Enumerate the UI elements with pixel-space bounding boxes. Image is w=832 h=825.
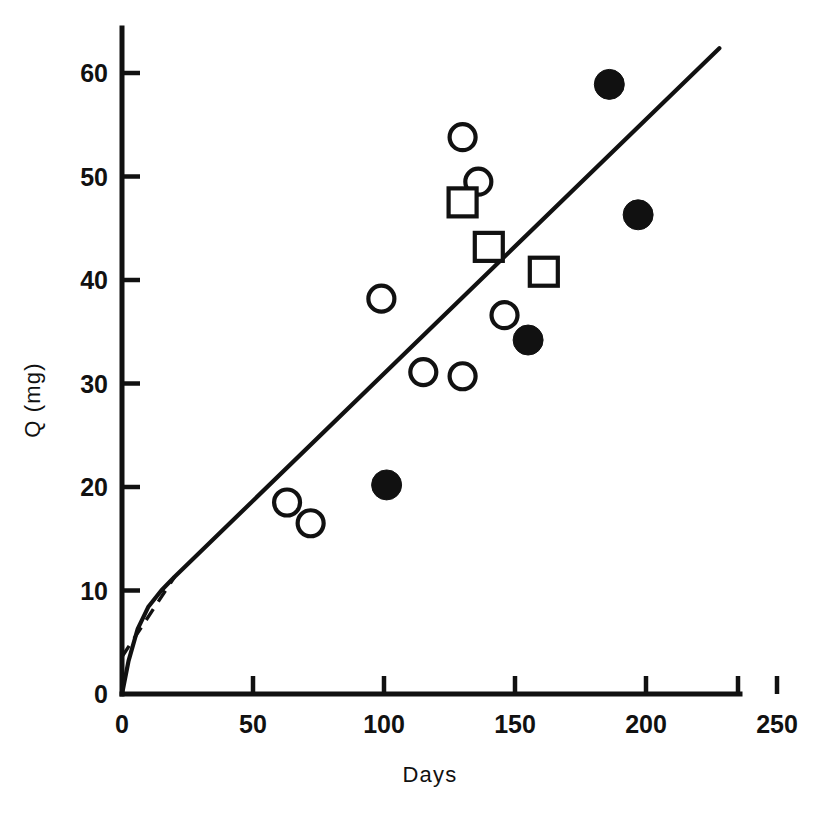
data-point-open-square [449, 188, 477, 216]
y-tick-label-60: 60 [80, 59, 108, 87]
data-point-open-circle [450, 363, 476, 389]
y-tick-label-10: 10 [80, 577, 108, 605]
data-point-filled-circle [623, 200, 653, 230]
y-axis-title: Q (mg) [20, 362, 45, 438]
y-tick-label-50: 50 [80, 163, 108, 191]
data-point-filled-circle [594, 69, 624, 99]
x-tick-label-100: 100 [363, 710, 405, 738]
data-point-filled-circle [372, 470, 402, 500]
x-tick-label-0: 0 [115, 710, 129, 738]
data-point-open-square [530, 258, 558, 286]
data-point-open-circle [450, 124, 476, 150]
data-marker-group [274, 69, 653, 536]
x-tick-label-250: 250 [756, 710, 798, 738]
y-tick-label-40: 40 [80, 266, 108, 294]
x-tick-group: 050100150200250 [115, 676, 798, 738]
data-point-open-square [475, 233, 503, 261]
data-point-open-circle [410, 359, 436, 385]
x-axis-title: Days [403, 762, 458, 787]
x-tick-label-150: 150 [494, 710, 536, 738]
data-point-open-circle [274, 490, 300, 516]
figure-container: 102030405060 050100150200250 0 Days Q (m… [0, 0, 832, 825]
data-point-open-circle [368, 286, 394, 312]
scatter-plot: 102030405060 050100150200250 0 Days Q (m… [0, 0, 832, 825]
x-tick-label-200: 200 [625, 710, 667, 738]
origin-label: 0 [94, 680, 108, 708]
y-tick-label-30: 30 [80, 370, 108, 398]
data-point-open-circle [492, 302, 518, 328]
y-tick-label-20: 20 [80, 473, 108, 501]
data-point-filled-circle [513, 325, 543, 355]
data-point-open-circle [298, 510, 324, 536]
x-tick-label-50: 50 [239, 710, 267, 738]
y-tick-group: 102030405060 [80, 59, 140, 605]
